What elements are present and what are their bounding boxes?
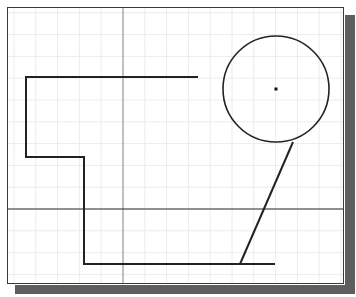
tangent-line-entity[interactable] [240, 142, 293, 264]
drawing-svg[interactable] [0, 0, 356, 297]
grid [8, 8, 343, 283]
polyline-entity[interactable] [26, 77, 275, 264]
circle-center-point[interactable] [275, 88, 278, 91]
